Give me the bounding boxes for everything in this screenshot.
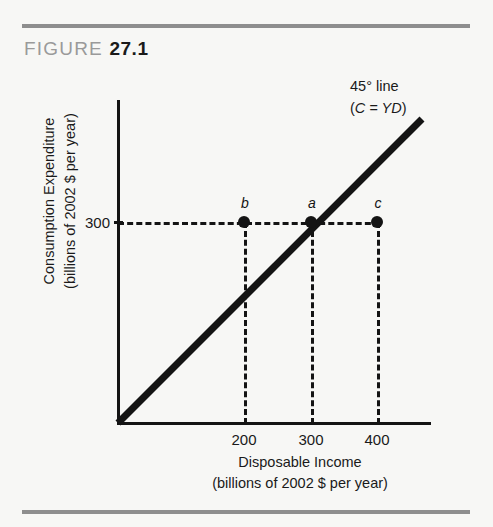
x-axis-title-line2: (billions of 2002 $ per year) <box>150 473 450 494</box>
y-tick-mark-300 <box>114 221 123 224</box>
line-legend-line2: (C = YD) <box>350 98 407 120</box>
y-axis-title: Consumption Expenditure (billions of 200… <box>39 51 81 351</box>
y-axis-title-line1: Consumption Expenditure <box>39 51 60 351</box>
data-point-label-a: a <box>308 195 316 211</box>
y-axis-title-line2: (billions of 2002 $ per year) <box>60 51 81 351</box>
data-point-c <box>371 216 383 228</box>
x-axis-title-line1: Disposable Income <box>150 452 450 473</box>
forty-five-degree-line <box>110 110 430 430</box>
vertical-guide-400 <box>377 222 380 424</box>
y-tick-label-300: 300 <box>78 214 110 231</box>
line-legend: 45° line (C = YD) <box>350 76 407 120</box>
data-point-b <box>238 216 250 228</box>
line-legend-paren-close: ) <box>402 100 407 116</box>
vertical-guide-300 <box>311 222 314 424</box>
data-point-label-c: c <box>375 195 382 211</box>
vertical-guide-200 <box>244 222 247 424</box>
data-point-a <box>305 216 317 228</box>
x-tick-label-300: 300 <box>298 431 323 448</box>
figure-container: FIGURE 27.1 b a c 300 200 300 400 <box>0 0 493 527</box>
x-axis-title: Disposable Income (billions of 2002 $ pe… <box>150 452 450 494</box>
plot-area: b a c 300 200 300 400 Disposable Income … <box>0 0 493 527</box>
line-legend-line1: 45° line <box>350 76 407 98</box>
data-point-label-b: b <box>241 195 249 211</box>
x-tick-label-200: 200 <box>231 431 256 448</box>
line-legend-equation: C = YD <box>355 100 402 116</box>
x-tick-label-400: 400 <box>364 431 389 448</box>
